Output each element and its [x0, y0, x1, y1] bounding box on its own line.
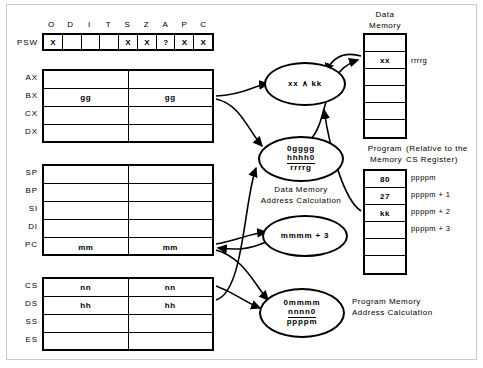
- ss-low: [129, 315, 213, 332]
- pc-high: mm: [44, 238, 129, 256]
- si-high: [44, 202, 129, 219]
- program-memory-note-line1: (Relative to the: [406, 144, 483, 155]
- data-memory-cell-5: [365, 120, 405, 137]
- data-addr-caption-line1: Data Memory: [241, 185, 361, 196]
- register-label-es: ES: [10, 335, 38, 344]
- program-memory-address-0: ppppm: [411, 173, 436, 182]
- data-addr-line3: rrrrg: [290, 164, 311, 173]
- flag-name-O: O: [42, 20, 61, 29]
- general-register-block: gg gg: [42, 69, 214, 143]
- pc-increment-text: mmmm + 3: [281, 232, 329, 241]
- data-address-calc-oval: 0gggg hhhh0 rrrrg: [258, 136, 344, 182]
- table-row: [44, 315, 212, 333]
- flag-name-S: S: [118, 20, 137, 29]
- sp-low: [129, 166, 213, 183]
- register-label-pc: PC: [10, 240, 38, 249]
- sp-high: [44, 166, 129, 183]
- psw-label: PSW: [10, 38, 38, 47]
- flag-name-Z: Z: [137, 20, 156, 29]
- flag-name-I: I: [80, 20, 99, 29]
- flag-name-D: D: [61, 20, 80, 29]
- psw-flag-D: [63, 35, 82, 49]
- prog-addr-caption-line2: Address Calculation: [352, 308, 472, 319]
- table-row: [44, 71, 212, 89]
- flag-name-P: P: [175, 20, 194, 29]
- psw-flag-A: ?: [157, 35, 176, 49]
- table-row: [44, 107, 212, 125]
- data-memory-address-label: rrrrg: [411, 56, 427, 65]
- psw-flag-T: [100, 35, 119, 49]
- register-label-ss: SS: [10, 317, 38, 326]
- register-label-di: DI: [10, 222, 38, 231]
- register-label-ds: DS: [10, 299, 38, 308]
- dx-high: [44, 125, 129, 143]
- psw-flag-O: X: [44, 35, 63, 49]
- data-memory-cell-4: [365, 103, 405, 120]
- program-memory-cell-5: [365, 256, 405, 273]
- program-memory-address-3: ppppm + 3: [411, 224, 450, 233]
- and-operation-text: xx ∧ kk: [288, 80, 322, 89]
- program-memory-cell-1: 27: [365, 188, 405, 205]
- bx-low: gg: [129, 89, 213, 106]
- data-memory-title-line2: Memory: [330, 21, 440, 32]
- ax-low: [129, 71, 213, 88]
- program-address-calc-oval: 0mmmm nnnn0 ppppm: [259, 288, 345, 338]
- bp-low: [129, 184, 213, 201]
- cx-low: [129, 107, 213, 124]
- psw-flag-C: X: [194, 35, 212, 49]
- and-operation-oval: xx ∧ kk: [264, 62, 346, 106]
- es-high: [44, 333, 129, 351]
- flag-name-C: C: [194, 20, 213, 29]
- register-label-dx: DX: [10, 127, 38, 136]
- si-low: [129, 202, 213, 219]
- es-low: [129, 333, 213, 351]
- table-row: [44, 166, 212, 184]
- program-memory-column: 80 27 kk: [363, 169, 407, 275]
- bp-high: [44, 184, 129, 201]
- program-memory-cell-0: 80: [365, 171, 405, 188]
- table-row: gg gg: [44, 89, 212, 107]
- program-memory-cell-2: kk: [365, 205, 405, 222]
- register-label-cs: CS: [10, 281, 38, 290]
- program-memory-address-2: ppppm + 2: [411, 207, 450, 216]
- dx-low: [129, 125, 213, 143]
- table-row: mm mm: [44, 238, 212, 256]
- ss-high: [44, 315, 129, 332]
- data-memory-cell-3: [365, 86, 405, 103]
- diagram-canvas: O D I T S Z A P C PSW X X X ? X X AX BX …: [0, 0, 483, 368]
- data-addr-caption-line2: Address Calculation: [241, 196, 361, 207]
- segment-register-block: nn nn hh hh: [42, 277, 214, 351]
- cs-high: nn: [44, 279, 129, 296]
- table-row: [44, 220, 212, 238]
- pointer-register-block: mm mm: [42, 164, 214, 256]
- program-memory-cell-4: [365, 239, 405, 256]
- bx-high: gg: [44, 89, 129, 106]
- program-memory-address-1: ppppm + 1: [411, 190, 450, 199]
- flag-name-T: T: [99, 20, 118, 29]
- ds-high: hh: [44, 297, 129, 314]
- prog-addr-line3: ppppm: [287, 318, 318, 327]
- data-memory-cell-0: [365, 35, 405, 52]
- data-memory-cell-2: [365, 69, 405, 86]
- di-high: [44, 220, 129, 237]
- psw-register-box: X X X ? X X: [42, 33, 214, 51]
- di-low: [129, 220, 213, 237]
- register-label-sp: SP: [10, 168, 38, 177]
- table-row: nn nn: [44, 279, 212, 297]
- register-label-ax: AX: [10, 73, 38, 82]
- psw-flag-Z: X: [138, 35, 157, 49]
- ds-low: hh: [129, 297, 213, 314]
- cs-low: nn: [129, 279, 213, 296]
- program-memory-note-line2: CS Register): [406, 155, 483, 166]
- flag-name-A: A: [156, 20, 175, 29]
- program-memory-cell-3: [365, 222, 405, 239]
- prog-addr-caption-line1: Program Memory: [352, 297, 472, 308]
- psw-flag-P: X: [175, 35, 194, 49]
- register-label-cx: CX: [10, 109, 38, 118]
- table-row: [44, 202, 212, 220]
- register-label-bx: BX: [10, 91, 38, 100]
- cx-high: [44, 107, 129, 124]
- ax-high: [44, 71, 129, 88]
- table-row: [44, 184, 212, 202]
- data-memory-title-line1: Data: [330, 10, 440, 21]
